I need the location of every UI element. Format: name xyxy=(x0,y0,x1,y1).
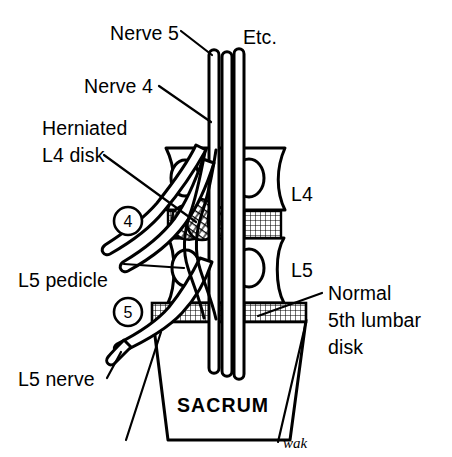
spine-diagram-figure: 4 5 Nerve 5 Etc. Nerve 4 Herniated L4 di… xyxy=(0,0,452,457)
label-sacrum: SACRUM xyxy=(177,394,269,416)
label-herniated-line2: L4 disk xyxy=(42,144,105,166)
label-normal-line3: disk xyxy=(328,336,363,358)
label-herniated-line1: Herniated xyxy=(42,117,127,139)
label-signature: wak xyxy=(283,435,308,451)
marker-5-label: 5 xyxy=(124,304,133,321)
cauda-equina-bundle xyxy=(209,49,244,380)
label-normal-line2: 5th lumbar xyxy=(328,309,422,331)
label-nerve-4: Nerve 4 xyxy=(84,75,153,97)
label-l5: L5 xyxy=(291,259,313,281)
marker-4-badge: 4 xyxy=(114,207,142,235)
marker-4-label: 4 xyxy=(124,213,133,230)
spine-diagram-svg: 4 5 Nerve 5 Etc. Nerve 4 Herniated L4 di… xyxy=(0,0,452,457)
label-l5-pedicle: L5 pedicle xyxy=(18,269,108,291)
marker-5-badge: 5 xyxy=(114,298,142,326)
label-l5-nerve: L5 nerve xyxy=(18,368,95,390)
label-nerve-5: Nerve 5 xyxy=(110,22,179,44)
label-etc: Etc. xyxy=(243,26,277,48)
label-normal-line1: Normal xyxy=(328,282,391,304)
label-l4: L4 xyxy=(291,183,313,205)
